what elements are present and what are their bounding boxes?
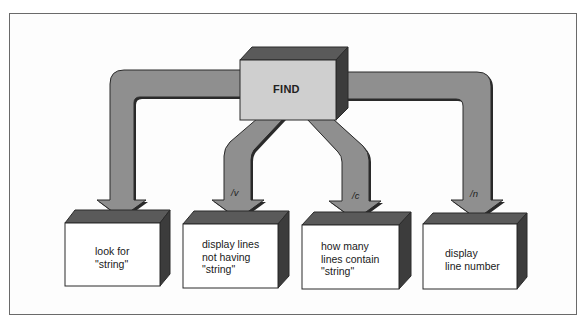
arrow-not-having-string: [212, 118, 286, 221]
box-2-line-2: not having: [202, 251, 259, 264]
box-3-text: how many lines contain "string": [321, 240, 379, 278]
box-2-text: display lines not having "string": [202, 238, 259, 276]
box-4-line-1: display: [445, 247, 500, 260]
switch-n-label: /n: [470, 188, 478, 199]
arrow-look-for-string: [97, 70, 244, 220]
switch-v-label: /v: [231, 187, 238, 198]
box-4-text: display line number: [445, 247, 500, 272]
switch-c-label: /c: [352, 190, 359, 201]
box-3-line-2: lines contain: [321, 253, 379, 266]
box-1-text: look for "string": [95, 245, 129, 270]
find-label: FIND: [273, 83, 300, 95]
box-3-line-1: how many: [321, 240, 379, 253]
arrow-count-lines: [306, 118, 383, 222]
box-1-line-2: "string": [95, 258, 129, 271]
box-2-line-1: display lines: [202, 238, 259, 251]
box-1-line-1: look for: [95, 245, 129, 258]
box-4-line-2: line number: [445, 260, 500, 273]
box-3-line-3: "string": [321, 265, 379, 278]
box-2-line-3: "string": [202, 263, 259, 276]
diagram-canvas: [0, 0, 586, 321]
